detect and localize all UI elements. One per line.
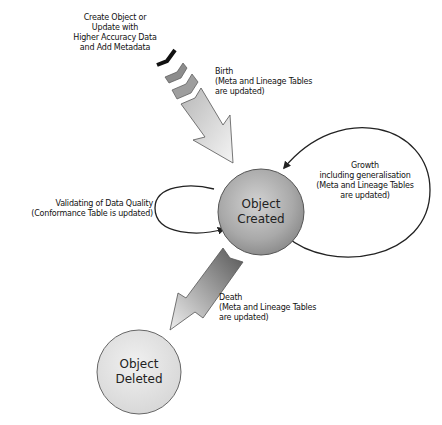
birth-shaft (181, 88, 233, 163)
object-created-line-1: Object (221, 197, 301, 212)
object-deleted-line-1: Object (99, 357, 179, 372)
death-label: Death (Meta and Lineage Tables are updat… (219, 293, 316, 323)
growth-line-2: including generalisation (305, 171, 425, 181)
growth-line-1: Growth (305, 161, 425, 171)
object-deleted-line-2: Deleted (99, 372, 179, 387)
birth-label: Birth (Meta and Lineage Tables are updat… (215, 67, 312, 97)
birth-line-2: (Meta and Lineage Tables (215, 77, 312, 87)
death-line-2: (Meta and Lineage Tables (219, 303, 316, 313)
object-created-label: Object Created (221, 197, 301, 227)
object-deleted-label: Object Deleted (99, 357, 179, 387)
death-line-1: Death (219, 293, 316, 303)
growth-label: Growth including generalisation (Meta an… (305, 161, 425, 201)
create-line-4: and Add Metadata (62, 43, 168, 53)
growth-line-3: (Meta and Lineage Tables (305, 181, 425, 191)
create-object-label: Create Object or Update with Higher Accu… (62, 13, 168, 53)
object-created-line-2: Created (221, 212, 301, 227)
chevron-gray-1 (165, 63, 187, 83)
validation-label: Validating of Data Quality (Conformance … (10, 199, 153, 219)
create-line-2: Update with (62, 23, 168, 33)
birth-line-1: Birth (215, 67, 312, 77)
validation-loop (155, 186, 224, 233)
create-line-3: Higher Accuracy Data (62, 33, 168, 43)
validation-line-1: Validating of Data Quality (10, 199, 153, 209)
growth-line-4: are updated) (305, 191, 425, 201)
death-line-3: are updated) (219, 313, 316, 323)
validation-line-2: (Conformance Table is updated) (10, 209, 153, 219)
birth-line-3: are updated) (215, 87, 312, 97)
create-line-1: Create Object or (62, 13, 168, 23)
